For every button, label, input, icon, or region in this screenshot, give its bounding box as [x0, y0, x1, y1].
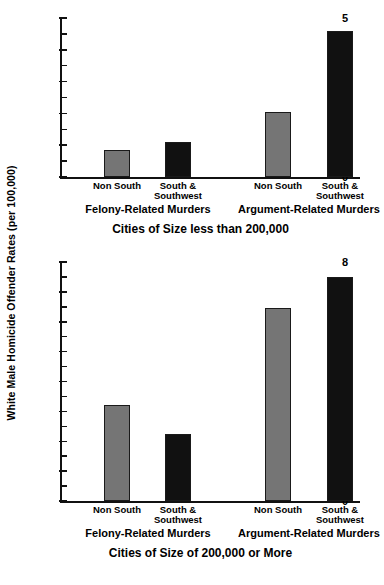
plot-area-top: 012345 [60, 18, 360, 177]
x-category-label: South & Southwest [138, 505, 218, 526]
y-tick-major [59, 176, 67, 178]
y-tick-major [59, 470, 67, 472]
y-tick-major [59, 17, 67, 19]
plot-area-bottom: 012345678 [60, 262, 360, 501]
y-tick-major [59, 49, 67, 51]
y-tick-major [59, 261, 67, 263]
y-tick-minor [62, 160, 67, 162]
y-tick-minor [62, 276, 67, 278]
y-tick-minor [62, 396, 67, 398]
y-tick-major [59, 113, 67, 115]
y-tick-minor [62, 426, 67, 428]
y-tick-major [59, 291, 67, 293]
y-tick-major [59, 441, 67, 443]
y-tick-minor [62, 97, 67, 99]
y-tick-minor [62, 65, 67, 67]
y-tick-minor [62, 366, 67, 368]
panel-title-bottom: Cities of Size of 200,000 or More [22, 546, 379, 560]
y-tick-minor [62, 336, 67, 338]
y-tick-major [59, 500, 67, 502]
y-axis-label: White Male Homicide Offender Rates (per … [5, 165, 17, 420]
x-category-label: South & Southwest [300, 181, 380, 202]
y-tick-label: 8 [330, 256, 348, 268]
y-tick-minor [62, 129, 67, 131]
x-axis-line-bottom [60, 501, 360, 503]
chart-panel-small-cities: 012345 Cities of Size less than 200,000 … [22, 4, 379, 240]
x-axis-line-top [60, 177, 360, 179]
x-group-label: Felony-Related Murders [58, 527, 238, 539]
y-tick-major [59, 351, 67, 353]
x-category-label: South & Southwest [138, 181, 218, 202]
bar [265, 112, 291, 178]
bar [265, 308, 291, 501]
y-tick-minor [62, 306, 67, 308]
bar [104, 150, 130, 177]
y-tick-major [59, 381, 67, 383]
bar [104, 405, 130, 501]
y-tick-major [59, 144, 67, 146]
chart-panel-large-cities: 012345678 Cities of Size of 200,000 or M… [22, 248, 379, 585]
x-group-label: Argument-Related Murders [219, 527, 384, 539]
y-tick-minor [62, 455, 67, 457]
bar [165, 142, 191, 177]
bar [327, 31, 353, 177]
bar [165, 434, 191, 501]
y-tick-major [59, 321, 67, 323]
panel-title-top: Cities of Size less than 200,000 [22, 222, 379, 236]
y-tick-major [59, 81, 67, 83]
x-category-label: South & Southwest [300, 505, 380, 526]
x-group-label: Felony-Related Murders [58, 203, 238, 215]
y-tick-minor [62, 485, 67, 487]
y-axis-label-container: White Male Homicide Offender Rates (per … [0, 0, 22, 585]
x-group-label: Argument-Related Murders [219, 203, 384, 215]
y-tick-label: 5 [330, 12, 348, 24]
bar [327, 277, 353, 501]
y-tick-major [59, 411, 67, 413]
y-tick-minor [62, 33, 67, 35]
